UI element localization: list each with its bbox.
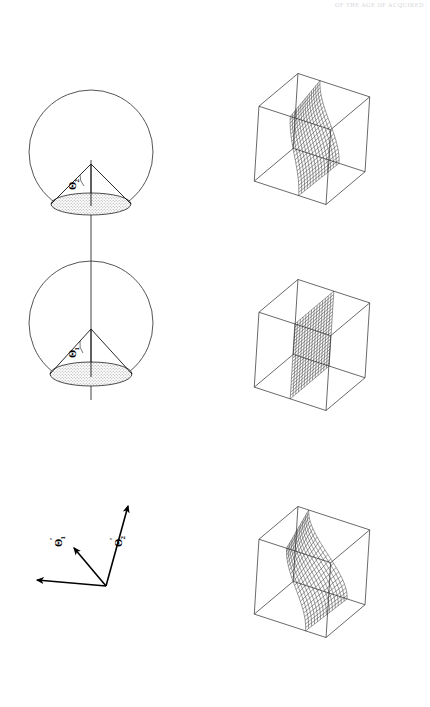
triad-label-theta-2-prime: ′ <box>109 538 118 540</box>
box-edge <box>254 148 293 181</box>
wireframe-box-1 <box>254 73 369 204</box>
mesh-column <box>326 294 331 369</box>
box-edge <box>259 73 298 106</box>
box-edge <box>326 336 331 411</box>
box-edge <box>326 563 331 638</box>
mesh-column <box>307 310 312 385</box>
box-edge <box>259 279 298 312</box>
wireframe-box-3 <box>254 506 369 637</box>
box-edge <box>331 303 370 336</box>
coordinate-triad: Θ 1 ′ Θ 2 ′ <box>37 506 128 586</box>
box-edge <box>326 172 365 205</box>
box-edge <box>254 539 259 614</box>
cone-label-theta-1-sub: 1 <box>73 347 81 351</box>
parameter-cone-group: Θ 2 Θ 1 <box>29 90 153 400</box>
mesh-column <box>318 301 323 376</box>
mesh-column <box>301 315 306 390</box>
page-canvas: OF THE AGE OF ACQUIRED <box>0 0 430 707</box>
box-edge <box>365 97 370 172</box>
mesh-row <box>299 163 339 195</box>
box-edge <box>259 506 298 539</box>
box-edge <box>254 581 293 614</box>
mesh-column <box>290 324 295 399</box>
box-edge <box>254 106 259 181</box>
surface-box-column <box>254 73 369 637</box>
box-edge <box>365 303 370 378</box>
box-edge <box>331 97 370 130</box>
cone-label-theta-2-sub: 2 <box>73 179 81 183</box>
mesh-column <box>304 312 309 387</box>
box-edge <box>331 530 370 563</box>
mesh-column <box>321 298 326 373</box>
mesh-column <box>315 303 320 378</box>
axis-arrow-third <box>37 580 106 586</box>
box-edge <box>254 354 293 387</box>
figure-rotated-plate: Θ 2 Θ 1 <box>0 0 430 707</box>
box-edge <box>365 530 370 605</box>
triad-label-theta-1-sub: 1 <box>59 536 67 540</box>
box-edge <box>254 312 259 387</box>
wireframe-box-2 <box>254 279 369 410</box>
mesh-column <box>299 317 304 392</box>
box-edge <box>254 614 326 637</box>
box-edge <box>326 378 365 411</box>
cone-theta-2: Θ 2 <box>29 90 153 215</box>
box-edge <box>254 181 326 204</box>
box-edge <box>326 605 365 638</box>
axis-arrow-theta-1-prime <box>74 548 106 586</box>
mesh-column <box>329 291 334 366</box>
triad-label-theta-1-prime: ′ <box>49 538 58 540</box>
mesh-column <box>293 322 298 397</box>
triad-label-theta-2-sub: 2 <box>119 536 127 540</box>
mesh-column <box>292 114 301 193</box>
mesh-column <box>310 308 315 383</box>
box-edge <box>293 279 298 354</box>
box-edge <box>298 73 370 96</box>
mesh-column <box>312 305 317 380</box>
